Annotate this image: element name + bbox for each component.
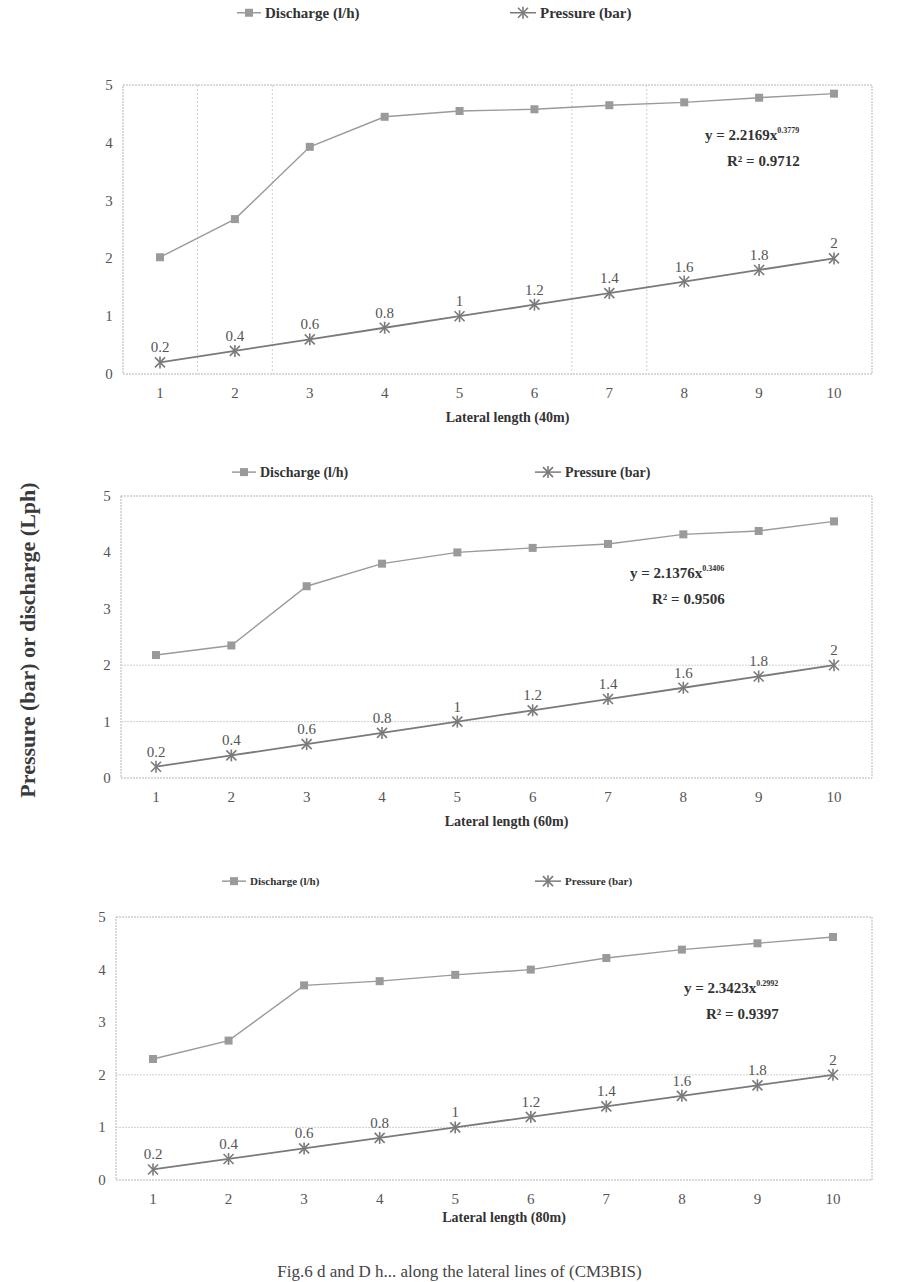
data-label: 0.8	[370, 1115, 389, 1131]
x-tick-label: 10	[827, 789, 842, 805]
data-point	[225, 1037, 233, 1045]
data-label: 1.8	[749, 653, 768, 669]
data-point	[303, 582, 311, 590]
svg-text:y = 2.1376x0.3406: y = 2.1376x0.3406	[630, 564, 724, 581]
data-point	[753, 939, 761, 947]
x-tick-label: 5	[456, 385, 464, 401]
data-label: 1.8	[750, 247, 769, 263]
data-point	[527, 966, 535, 974]
data-label: 1	[456, 293, 464, 309]
data-label: 1.6	[675, 259, 694, 275]
y-tick-label: 4	[98, 962, 106, 978]
data-point	[679, 530, 687, 538]
series-discharge	[156, 90, 838, 262]
series-discharge	[149, 933, 837, 1063]
svg-text:Discharge (l/h): Discharge (l/h)	[250, 875, 320, 888]
trendline-equation: y = 2.2169x0.3779R² = 0.9712	[705, 126, 800, 169]
data-point	[227, 641, 235, 649]
data-point	[602, 954, 610, 962]
x-tick-label: 5	[451, 1191, 459, 1207]
y-tick-label: 0	[98, 1172, 106, 1188]
svg-text:Pressure (bar): Pressure (bar)	[565, 465, 651, 481]
svg-text:Discharge (l/h): Discharge (l/h)	[265, 5, 360, 22]
x-axis-label: Lateral length (80m)	[442, 1210, 566, 1226]
data-label: 1.6	[673, 1073, 692, 1089]
data-label: 0.2	[144, 1146, 163, 1162]
data-point	[231, 215, 239, 223]
data-label: 1.2	[523, 687, 542, 703]
x-tick-label: 6	[531, 385, 539, 401]
data-point	[530, 105, 538, 113]
legend: Discharge (l/h)Pressure (bar)	[237, 5, 632, 22]
x-tick-label: 2	[228, 789, 236, 805]
data-point	[306, 143, 314, 151]
data-label: 0.2	[147, 744, 166, 760]
data-label: 0.8	[373, 710, 392, 726]
r-squared: R² = 0.9397	[706, 1006, 779, 1022]
data-point	[156, 253, 164, 261]
data-point	[680, 98, 688, 106]
data-label: 1.4	[597, 1083, 616, 1099]
chart-2: 01234512345678910Lateral length (60m)Dis…	[103, 465, 872, 830]
y-tick-label: 2	[98, 1067, 106, 1083]
y-tick-label: 0	[103, 770, 111, 786]
y-tick-label: 5	[103, 488, 111, 504]
x-tick-label: 3	[306, 385, 314, 401]
x-tick-label: 6	[527, 1191, 535, 1207]
chart-3: 01234512345678910Lateral length (80m)Dis…	[98, 875, 872, 1226]
y-tick-label: 3	[103, 601, 111, 617]
y-tick-label: 5	[98, 909, 106, 925]
data-label: 1	[451, 1104, 459, 1120]
data-point	[453, 548, 461, 556]
x-tick-label: 10	[827, 385, 842, 401]
data-point	[376, 977, 384, 985]
y-tick-label: 2	[105, 250, 113, 266]
data-label: 0.6	[300, 316, 319, 332]
y-tick-label: 1	[98, 1119, 106, 1135]
x-tick-label: 1	[149, 1191, 157, 1207]
svg-text:Pressure (bar): Pressure (bar)	[565, 875, 632, 888]
x-tick-label: 3	[303, 789, 311, 805]
square-marker-icon	[240, 468, 248, 476]
legend-item-discharge: Discharge (l/h)	[232, 465, 349, 481]
x-tick-label: 1	[156, 385, 164, 401]
data-point	[678, 946, 686, 954]
x-tick-label: 4	[378, 789, 386, 805]
r-squared: R² = 0.9506	[652, 591, 725, 607]
data-point	[300, 981, 308, 989]
series-pressure: 0.20.40.60.811.21.41.61.82	[144, 1052, 838, 1176]
chart-1: 01234512345678910Lateral length (40m)Dis…	[105, 5, 872, 426]
x-tick-label: 9	[755, 789, 763, 805]
svg-text:y = 2.2169x0.3779: y = 2.2169x0.3779	[705, 126, 799, 143]
data-point	[152, 651, 160, 659]
square-marker-icon	[245, 9, 253, 17]
data-label: 0.4	[219, 1136, 238, 1152]
data-point	[456, 107, 464, 115]
y-tick-label: 4	[103, 544, 111, 560]
data-label: 1.4	[599, 676, 618, 692]
x-tick-label: 8	[680, 789, 688, 805]
x-tick-label: 7	[606, 385, 614, 401]
data-point	[529, 544, 537, 552]
data-label: 1.6	[674, 665, 693, 681]
series-pressure: 0.20.40.60.811.21.41.61.82	[151, 235, 839, 368]
data-point	[381, 113, 389, 121]
data-label: 1.2	[521, 1094, 540, 1110]
data-label: 2	[829, 1052, 837, 1068]
y-tick-label: 4	[105, 135, 113, 151]
y-tick-label: 1	[103, 714, 111, 730]
x-tick-label: 2	[225, 1191, 233, 1207]
data-point	[755, 94, 763, 102]
x-tick-label: 1	[152, 789, 160, 805]
data-point	[830, 517, 838, 525]
x-tick-label: 3	[300, 1191, 308, 1207]
x-tick-label: 7	[603, 1191, 611, 1207]
square-marker-icon	[230, 877, 238, 885]
x-tick-label: 7	[604, 789, 612, 805]
x-tick-label: 4	[381, 385, 389, 401]
series-discharge	[152, 517, 838, 659]
r-squared: R² = 0.9712	[727, 153, 800, 169]
data-label: 0.4	[226, 328, 245, 344]
y-tick-label: 3	[105, 193, 113, 209]
legend: Discharge (l/h)Pressure (bar)	[232, 465, 651, 481]
